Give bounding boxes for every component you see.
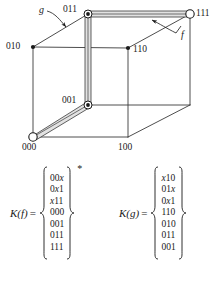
matrix-kf-rows: 00x 0x1 x11 000 001 011 111 bbox=[48, 173, 66, 253]
right-brace-kf bbox=[66, 166, 75, 260]
vertex-label-010: 010 bbox=[6, 42, 20, 52]
vertex-001-marker bbox=[84, 101, 92, 109]
matrix-kf-row: 000 bbox=[50, 207, 64, 218]
matrix-kf-brace-wrap: 00x 0x1 x11 000 001 011 111 * bbox=[39, 166, 75, 260]
highlight-edge-011-001 bbox=[85, 14, 91, 105]
matrix-kg-row: x10 bbox=[161, 173, 175, 184]
matrix-kg-name: K(g) bbox=[119, 207, 139, 219]
matrix-kf-row: 011 bbox=[50, 230, 64, 241]
vertex-label-111: 111 bbox=[196, 9, 210, 19]
vertex-000-marker bbox=[29, 133, 37, 141]
matrices-area: K(f) = 00x 0x1 x11 000 001 011 111 * K(g… bbox=[0, 160, 219, 286]
highlight-edge-011-111 bbox=[88, 11, 190, 17]
vertex-111-marker bbox=[186, 10, 194, 18]
matrix-kf-row: x11 bbox=[50, 196, 63, 207]
left-brace-kf bbox=[39, 166, 48, 260]
matrix-kg: K(g) = x10 01x 0x1 110 010 011 001 bbox=[119, 166, 187, 260]
matrix-kf: K(f) = 00x 0x1 x11 000 001 011 111 * bbox=[10, 166, 75, 260]
matrix-kf-equals: = bbox=[30, 207, 36, 219]
matrix-kg-equals: = bbox=[141, 207, 147, 219]
vertex-110-marker bbox=[126, 46, 130, 50]
matrix-kg-row: 01x bbox=[161, 184, 175, 195]
vertex-label-110: 110 bbox=[133, 45, 147, 55]
vertex-label-100: 100 bbox=[118, 143, 132, 153]
matrix-kg-rows: x10 01x 0x1 110 010 011 001 bbox=[159, 173, 177, 253]
vertex-label-000: 000 bbox=[22, 143, 36, 153]
annotation-label-f: f bbox=[181, 30, 184, 40]
matrix-kg-brace-wrap: x10 01x 0x1 110 010 011 001 bbox=[150, 166, 186, 260]
matrix-kf-row: 001 bbox=[50, 219, 64, 230]
right-brace-kg bbox=[178, 166, 187, 260]
matrix-kf-row: 0x1 bbox=[50, 184, 64, 195]
left-brace-kg bbox=[150, 166, 159, 260]
vertex-011-marker bbox=[84, 10, 92, 18]
edge-100-101 bbox=[128, 105, 190, 137]
vertex-010-marker bbox=[31, 45, 35, 49]
matrix-kf-row: 00x bbox=[50, 173, 64, 184]
matrix-kg-row: 110 bbox=[161, 207, 175, 218]
edge-010-011 bbox=[33, 14, 88, 47]
matrix-kg-row: 0x1 bbox=[161, 196, 175, 207]
leader-f bbox=[152, 20, 176, 33]
edge-010-110 bbox=[33, 47, 128, 48]
vertex-label-001: 001 bbox=[62, 96, 76, 106]
matrix-kf-superscript: * bbox=[77, 164, 82, 174]
annotation-label-g: g bbox=[39, 5, 44, 15]
matrix-kg-row: 001 bbox=[161, 242, 175, 253]
matrix-kg-row: 010 bbox=[161, 219, 175, 230]
vertex-label-011: 011 bbox=[63, 5, 77, 15]
matrix-kf-name: K(f) bbox=[10, 207, 28, 219]
highlighted-edges bbox=[33, 11, 190, 140]
cube-edges bbox=[33, 14, 190, 137]
matrix-kf-row: 111 bbox=[50, 242, 64, 253]
matrix-kg-row: 011 bbox=[161, 230, 175, 241]
highlight-edge-001-000 bbox=[33, 102, 90, 139]
